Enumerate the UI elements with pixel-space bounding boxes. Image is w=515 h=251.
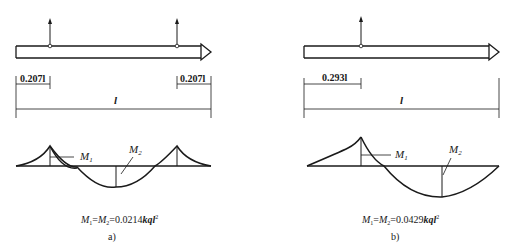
span-label: l [114, 94, 118, 106]
lifting-point-left [48, 18, 52, 48]
arrow-up-icon [359, 16, 363, 22]
formula-a: M1=M2=0.0214kql2 [80, 214, 158, 226]
dimension-right-a: 0.207l [177, 73, 211, 118]
beam-b [304, 44, 499, 60]
caption-b: b) [391, 231, 399, 243]
dim-label-left: 0.207l [20, 73, 46, 84]
hinge-icon [48, 44, 52, 48]
dimension-left-b: 0.293l [304, 72, 361, 118]
hinge-icon [175, 44, 179, 48]
panel-b: 0.293l l M1 M2 M1=M2=0.0429kql2 b) [304, 16, 499, 243]
formula-b: M1=M2=0.0429kql2 [361, 214, 439, 226]
panel-a: 0.207l 0.207l l M1 M2 M1=M2=0.0214kql2 a… [16, 18, 211, 243]
m2-label-a: M2 [128, 143, 142, 157]
lifting-point-right [175, 18, 179, 48]
dim-label-right: 0.207l [180, 73, 206, 84]
beam-arrowhead-icon [201, 44, 211, 60]
span-label: l [400, 94, 404, 106]
lifting-point-b [359, 16, 363, 48]
dim-label-left: 0.293l [322, 72, 348, 83]
beam-a [16, 44, 211, 60]
moment-diagram-a: M1 M2 [16, 143, 211, 187]
moment-diagram-b: M1 M2 [307, 137, 499, 197]
caption-a: a) [108, 231, 116, 243]
arrow-up-icon [175, 18, 179, 24]
m1-label-b: M1 [394, 148, 408, 162]
dimension-left-a: 0.207l [16, 73, 50, 118]
m1-label-a: M1 [79, 150, 93, 164]
arrow-up-icon [48, 18, 52, 24]
hinge-icon [359, 44, 363, 48]
diagram-canvas: 0.207l 0.207l l M1 M2 M1=M2=0.0214kql2 a… [0, 0, 515, 251]
dimension-span-a: l [16, 94, 211, 109]
beam-arrowhead-icon [489, 44, 499, 60]
m2-label-b: M2 [448, 143, 462, 157]
